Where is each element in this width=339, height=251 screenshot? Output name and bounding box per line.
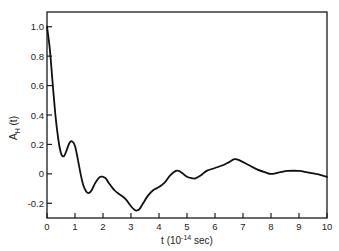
x-tick-label: 3 — [128, 221, 133, 232]
y-axis-label: AH (t) — [8, 116, 21, 140]
x-tick-label: 4 — [156, 221, 161, 232]
x-axis-label: t (10-14 sec) — [161, 234, 213, 246]
y-tick-label: 0 — [39, 168, 44, 179]
x-tick-label: 0 — [44, 221, 49, 232]
x-axis-ticks: 012345678910 — [44, 213, 332, 232]
line-chart: 1.00.80.60.40.20-0.2 012345678910 t (10-… — [0, 0, 339, 251]
x-tick-label: 1 — [72, 221, 77, 232]
x-tick-label: 7 — [240, 221, 245, 232]
x-tick-label: 2 — [100, 221, 105, 232]
y-tick-label: 0.6 — [31, 80, 44, 91]
y-tick-label: 1.0 — [31, 21, 44, 32]
x-tick-label: 6 — [212, 221, 217, 232]
y-tick-label: -0.2 — [28, 198, 44, 209]
x-tick-label: 10 — [322, 221, 333, 232]
x-tick-label: 5 — [184, 221, 189, 232]
y-axis-ticks: 1.00.80.60.40.20-0.2 — [28, 21, 52, 209]
plot-frame — [47, 12, 327, 218]
x-tick-label: 9 — [296, 221, 301, 232]
y-tick-label: 0.2 — [31, 139, 44, 150]
y-tick-label: 0.8 — [31, 51, 44, 62]
y-tick-label: 0.4 — [31, 110, 44, 121]
x-tick-label: 8 — [268, 221, 273, 232]
data-line — [47, 27, 327, 211]
